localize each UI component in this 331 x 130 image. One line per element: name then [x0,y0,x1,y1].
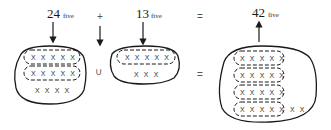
svg-text:X X X X X: X X X X X [240,55,286,62]
right-set: X X X X X X X X X X X X X X X X X X X X … [219,46,316,122]
term2-label: 13 five [136,6,162,21]
ones-left: X X X X [35,87,71,94]
svg-text:24: 24 [47,6,61,21]
svg-text:five: five [268,11,279,19]
svg-text:X X X X X: X X X X X [31,54,77,61]
svg-text:X X X X X: X X X X X [240,89,286,96]
ones-right: X X [290,106,306,113]
svg-text:X X X X X: X X X X X [240,72,286,79]
ones-middle: X X X [134,71,160,78]
left-set: X X X X X X X X X X X X X X [15,46,86,104]
union-symbol: ∪ [95,66,102,77]
svg-text:13: 13 [136,6,149,21]
svg-text:X X X X X: X X X X X [31,70,77,77]
plus-sign: + [97,11,103,22]
svg-text:X X X X X: X X X X X [240,106,286,113]
term1-label: 24 five [47,6,74,21]
equals-sign-top: = [197,11,203,22]
base-five-addition-diagram: 24 five + 13 five = 42 five X X X X X X … [0,0,331,130]
svg-text:42: 42 [252,5,265,20]
middle-set: X X X X X X X X [110,46,179,84]
svg-text:five: five [151,12,162,20]
result-label: 42 five [252,5,279,20]
svg-text:X X X X X: X X X X X [125,54,171,61]
svg-text:five: five [63,12,74,20]
equals-sign-bottom: = [197,69,203,80]
